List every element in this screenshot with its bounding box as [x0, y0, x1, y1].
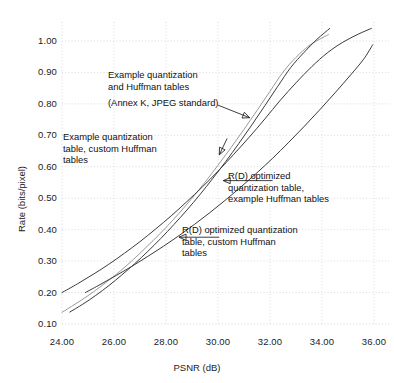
annotation-line: tables [63, 154, 157, 166]
x-tick-label-34: 34.00 [305, 336, 339, 347]
annotation-line: Example quantization [108, 69, 218, 81]
annotation-line: tables [182, 247, 298, 259]
annotation-line: (Annex K, JPEG standard) [108, 97, 218, 109]
x-tick-label-32: 32.00 [253, 336, 287, 347]
annotation-rd-opt-example-huffman: R(D) optimizedquantization table,example… [228, 170, 329, 205]
annotation-line: example Huffman tables [228, 193, 329, 205]
plot-area [0, 0, 394, 383]
annotation-line: R(D) optimized [228, 170, 329, 182]
annotation-example-quant-custom-huffman: Example quantizationtable, custom Huffma… [63, 131, 157, 166]
x-tick-label-26: 26.00 [97, 336, 131, 347]
annotation-line: quantization table, [228, 182, 329, 194]
annotation-rd-opt-custom-huffman: R(D) optimized quantizationtable, custom… [182, 224, 298, 259]
x-axis-title: PSNR (dB) [0, 362, 394, 373]
annotation-line: Example quantization [63, 131, 157, 143]
x-tick-label-24: 24.00 [45, 336, 79, 347]
y-tick-label-0-70: 0.70 [29, 129, 57, 140]
arrow-line-1 [219, 138, 227, 154]
x-tick-label-30: 30.00 [201, 336, 235, 347]
arrow-line-0 [218, 105, 250, 118]
y-tick-label-0-90: 0.90 [29, 66, 57, 77]
annotation-line: R(D) optimized quantization [182, 224, 298, 236]
annotation-line: table, custom Huffman [182, 236, 298, 248]
annotation-annex-k: Example quantizationand Huffman tables(A… [108, 69, 218, 109]
x-tick-label-36: 36.00 [357, 336, 391, 347]
y-axis-title: Rate (bits/pixel) [16, 166, 27, 232]
annotation-line: table, custom Huffman [63, 143, 157, 155]
y-tick-label-0-10: 0.10 [29, 318, 57, 329]
rate-distortion-chart: 1.00 0.90 0.80 0.70 0.60 0.50 0.40 0.30 … [0, 0, 394, 383]
y-tick-label-0-30: 0.30 [29, 255, 57, 266]
arrow-head-1 [219, 147, 225, 155]
y-tick-label-1-00: 1.00 [29, 35, 57, 46]
x-tick-label-28: 28.00 [149, 336, 183, 347]
y-tick-label-0-80: 0.80 [29, 98, 57, 109]
annotation-line: and Huffman tables [108, 81, 218, 93]
y-tick-label-0-50: 0.50 [29, 192, 57, 203]
y-tick-label-0-60: 0.60 [29, 161, 57, 172]
y-tick-label-0-40: 0.40 [29, 224, 57, 235]
y-tick-label-0-20: 0.20 [29, 287, 57, 298]
